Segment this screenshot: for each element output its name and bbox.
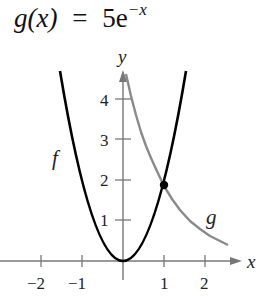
intersection-point [160,181,168,189]
x-axis-arrow-icon [230,257,242,265]
x-tick-label-neg1: −1 [68,274,86,293]
y-tick-label-2: 2 [100,171,109,190]
f-label: f [52,146,61,170]
x-tick-label-neg2: −2 [27,274,45,293]
x-tick-label-2: 2 [200,274,209,293]
g-label: g [206,205,217,229]
x-tick-label-1: 1 [160,274,169,293]
graph: y x f g 1 2 3 4 −2 −1 1 2 [0,0,266,303]
y-tick-label-1: 1 [100,211,109,230]
y-tick-label-3: 3 [100,131,109,150]
y-tick-label-4: 4 [100,91,109,110]
x-axis-label: x [246,251,256,272]
y-axis-label: y [116,46,127,67]
